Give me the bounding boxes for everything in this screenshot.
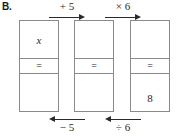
- bottom-arrow-1-label: − 5: [44, 121, 90, 133]
- third-box-bottom-value: 8: [147, 92, 153, 104]
- third-equation-box: = 8: [130, 20, 170, 112]
- third-box-middle-cell: =: [131, 59, 169, 74]
- second-box-top-cell: [75, 21, 113, 59]
- equals-sign: =: [147, 61, 153, 71]
- arrow-shaft: [54, 119, 85, 120]
- first-box-middle-cell: =: [20, 59, 58, 74]
- second-equation-box: =: [74, 20, 114, 112]
- equals-sign: =: [91, 61, 97, 71]
- arrow-shaft: [110, 119, 141, 120]
- top-arrow-1-label: + 5: [44, 0, 90, 12]
- equals-sign: =: [36, 61, 42, 71]
- first-box-top-value: x: [37, 34, 42, 46]
- problem-part-label: B.: [2, 1, 12, 12]
- arrow-shaft: [105, 17, 136, 18]
- bottom-arrow-2-label: ÷ 6: [100, 121, 146, 133]
- second-box-bottom-cell: [75, 74, 113, 111]
- first-box-bottom-cell: [20, 74, 58, 111]
- top-arrow-2-label: × 6: [100, 0, 146, 12]
- second-box-middle-cell: =: [75, 59, 113, 74]
- third-box-top-cell: [131, 21, 169, 59]
- first-equation-box: x =: [19, 20, 59, 112]
- first-box-top-cell: x: [20, 21, 58, 59]
- arrow-shaft: [49, 17, 80, 18]
- worksheet-diagram: B. + 5 × 6 x = =: [0, 0, 177, 136]
- third-box-bottom-cell: 8: [131, 74, 169, 111]
